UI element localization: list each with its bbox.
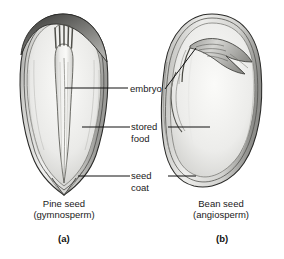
label-seed-coat-line1: seed — [131, 170, 152, 181]
label-seed-coat-line2: coat — [131, 182, 149, 193]
caption-pine-seed-line1: Pine seed — [0, 198, 128, 210]
seed-structure-figure: embryo stored food seed coat Pine seed (… — [0, 0, 284, 259]
label-embryo: embryo — [130, 83, 162, 94]
panel-letter-b: (b) — [216, 233, 228, 244]
label-stored-food-line1: stored — [131, 121, 157, 132]
label-stored-food-line2: food — [131, 133, 150, 144]
caption-pine-seed-line2: (gymnosperm) — [0, 209, 128, 221]
pine-seed-illustration — [20, 14, 108, 196]
caption-bean-seed-line1: Bean seed — [157, 198, 284, 210]
caption-bean-seed-line2: (angiosperm) — [157, 209, 284, 221]
panel-letter-a: (a) — [58, 233, 70, 244]
bean-seed-illustration — [161, 14, 261, 187]
